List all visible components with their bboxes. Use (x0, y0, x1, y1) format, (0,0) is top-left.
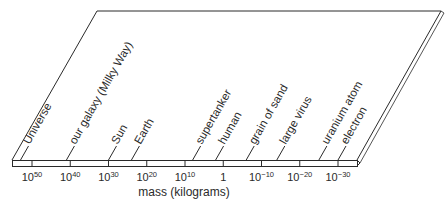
tick-label: 10−30 (326, 170, 351, 183)
pointer-line (109, 146, 117, 160)
object-label: large virus (277, 94, 314, 146)
mass-scale-diagram: Universeour galaxy (Milky Way)SunEarthsu… (0, 0, 447, 202)
object-label: Earth (132, 116, 156, 146)
tick-label: 10−10 (249, 170, 274, 183)
tick-label: 10−20 (287, 170, 312, 183)
object-label: Sun (109, 122, 130, 146)
pointer-line (66, 146, 74, 160)
tick-label: 1020 (136, 170, 157, 183)
pointer-line (338, 146, 346, 160)
object-label: Universe (21, 101, 54, 146)
pointer-line (131, 146, 139, 160)
tick-label: 1030 (98, 170, 119, 183)
tick-label: 1010 (175, 170, 196, 183)
pointer-line (246, 146, 254, 160)
tick-label: 1050 (22, 170, 43, 183)
tick-labels: 10501040103010201010110−1010−2010−30 (22, 170, 351, 183)
pointer-line (21, 146, 29, 160)
diagram-canvas: Universeour galaxy (Milky Way)SunEarthsu… (0, 0, 447, 202)
axis-label: mass (kilograms) (138, 185, 229, 199)
pointer-line (216, 146, 224, 160)
tick-label: 1040 (60, 170, 81, 183)
pointer-line (277, 146, 285, 160)
object-pointers: Universeour galaxy (Milky Way)SunEarthsu… (21, 39, 369, 160)
tick-label: 1 (220, 171, 226, 183)
axis-bar (13, 160, 361, 167)
pointer-line (319, 146, 327, 160)
pointer-line (193, 146, 201, 160)
